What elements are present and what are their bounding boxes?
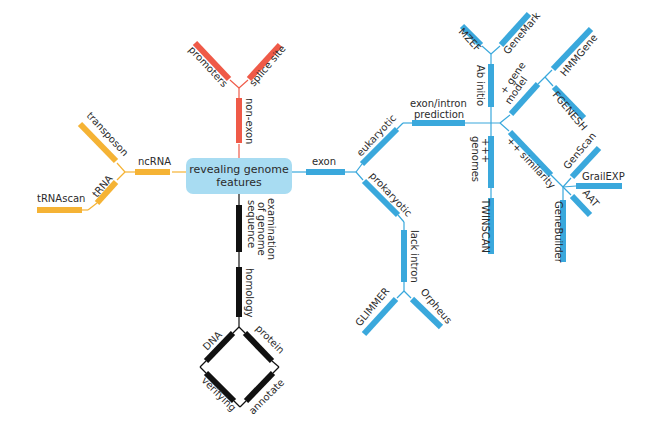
exon-label: exon bbox=[312, 156, 336, 167]
non-exon-label: non-exon bbox=[244, 98, 255, 144]
center-node-line1: revealing genome bbox=[189, 163, 289, 176]
homology-label: homology bbox=[244, 268, 255, 318]
genomes-label: genomes bbox=[470, 136, 481, 182]
exon-intron-label: exon/intron bbox=[410, 98, 467, 109]
genebuilder-label: GeneBuilder bbox=[553, 201, 564, 264]
grailexp-label: GrailEXP bbox=[582, 171, 625, 182]
prediction-label: prediction bbox=[414, 109, 464, 120]
center-node-line2: features bbox=[189, 176, 289, 189]
splice-site-label: splice site bbox=[247, 43, 288, 88]
similarity-label: ++ similarity bbox=[505, 135, 558, 191]
genemark-label: GeneMark bbox=[501, 10, 542, 56]
twinscan-label: TWINSCAN bbox=[480, 198, 491, 253]
trnascan-label: tRNAscan bbox=[37, 193, 85, 204]
genome-feature-tree-diagram: ncRNA transposon tRNA tRNAscan non-exon … bbox=[0, 0, 653, 434]
center-node: revealing genome features bbox=[186, 158, 292, 194]
sequence-label: sequence bbox=[246, 200, 257, 248]
ncrna-label: ncRNA bbox=[138, 156, 171, 167]
lack-intron-label: lack intron bbox=[409, 230, 420, 283]
ab-initio-label: Ab initio bbox=[475, 65, 486, 106]
verifying-label: verifying bbox=[200, 375, 239, 414]
fgenesh-label: FGENESH bbox=[550, 89, 589, 132]
promoters-label: promoters bbox=[187, 44, 230, 89]
